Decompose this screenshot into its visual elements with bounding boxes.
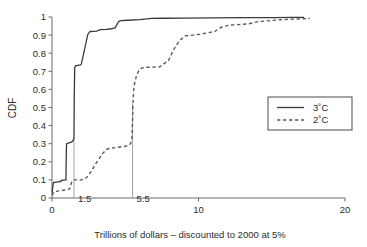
y-tick-label: 0.3 bbox=[33, 138, 46, 149]
x-axis: 01020 bbox=[49, 198, 350, 215]
axis-annotations: 1.55.5 bbox=[74, 104, 150, 204]
legend-box bbox=[268, 97, 352, 130]
y-tick-label: 0.6 bbox=[33, 84, 46, 95]
cdf-chart: 00.10.20.30.40.50.60.70.80.91 01020 1.55… bbox=[0, 0, 367, 247]
chart-legend[interactable]: 3˚C2˚C bbox=[268, 97, 352, 130]
y-tick-label: 0.7 bbox=[33, 66, 46, 77]
x-tick-label: 0 bbox=[49, 204, 54, 215]
y-tick-label: 0.2 bbox=[33, 156, 46, 167]
y-tick-label: 0.4 bbox=[33, 120, 46, 131]
y-tick-label: 0.9 bbox=[33, 30, 46, 41]
annotation-label-median-2C: 5.5 bbox=[137, 193, 150, 204]
chart-canvas: 00.10.20.30.40.50.60.70.80.91 01020 1.55… bbox=[0, 0, 367, 247]
y-tick-label: 0.1 bbox=[33, 174, 46, 185]
y-tick-label: 0 bbox=[41, 192, 46, 203]
y-axis: 00.10.20.30.40.50.60.70.80.91 bbox=[33, 11, 52, 203]
y-tick-label: 0.5 bbox=[33, 102, 46, 113]
x-tick-label: 20 bbox=[340, 204, 351, 215]
y-tick-label: 1 bbox=[41, 11, 46, 22]
legend-label-0: 3˚C bbox=[313, 102, 328, 113]
y-tick-label: 0.8 bbox=[33, 48, 46, 59]
x-axis-title: Trillions of dollars – discounted to 200… bbox=[94, 229, 286, 240]
x-tick-label: 10 bbox=[193, 204, 204, 215]
annotation-label-median-3C: 1.5 bbox=[78, 193, 91, 204]
y-axis-label: CDF bbox=[7, 98, 18, 119]
legend-label-1: 2˚C bbox=[313, 114, 328, 125]
